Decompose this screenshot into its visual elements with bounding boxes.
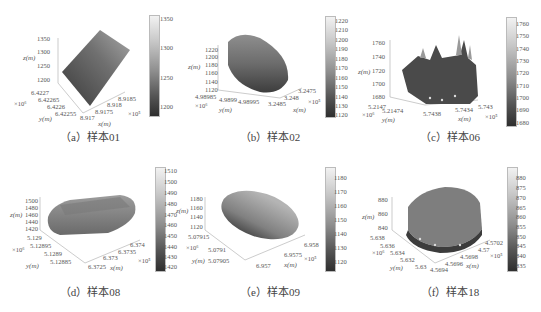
y-tick: 5.21474 xyxy=(382,108,403,115)
x-axis-label: x(m) xyxy=(98,121,111,128)
colorbar-tick: 845 xyxy=(516,243,526,250)
y-tick: 4.9899 xyxy=(219,97,237,104)
y-axis-label: y(m) xyxy=(382,117,395,124)
z-tick: 1420 xyxy=(25,226,38,233)
panel-sample-06: 1760 1740 1720 1700 1680 z(m) 5.2147 5.2… xyxy=(360,0,540,156)
x-tick: 5.7434 xyxy=(455,107,473,114)
colorbar-tick: 1190 xyxy=(335,46,348,53)
x-axis-label: x(m) xyxy=(466,263,479,270)
colorbar-tick: 1250 xyxy=(160,75,173,82)
z-tick: 1200 xyxy=(37,77,50,84)
colorbar-tick: 1690 xyxy=(516,107,529,114)
y-exponent: ×10⁶ xyxy=(12,247,24,254)
colorbar-tick: 1750 xyxy=(516,33,529,40)
y-tick: 5.632 xyxy=(400,257,415,264)
colorbar-tick: 1350 xyxy=(160,16,173,23)
panel-sample-02: 1220 1200 1180 1160 1140 1120 z(m) 4.989… xyxy=(180,0,360,156)
x-tick: 4.57 xyxy=(478,247,489,254)
y-tick: 5.12895 xyxy=(30,243,51,250)
z-tick: 1140 xyxy=(205,79,218,86)
colorbar-tick: 1200 xyxy=(160,104,173,111)
colorbar-tick: 1120 xyxy=(335,112,348,119)
colorbar-tick: 1160 xyxy=(335,75,348,82)
x-tick: 6.9575 xyxy=(284,252,302,259)
y-exponent: ×10⁶ xyxy=(195,103,207,110)
caption: （d）样本08 xyxy=(0,283,180,299)
x-axis-label: x(m) xyxy=(110,265,123,272)
colorbar-tick: 840 xyxy=(516,253,526,260)
colorbar-tick: 875 xyxy=(516,185,526,192)
colorbar-tick: 1170 xyxy=(335,65,348,72)
z-tick: 1160 xyxy=(190,205,203,212)
x-tick: 8.9175 xyxy=(95,109,113,116)
colorbar-tick: 1500 xyxy=(164,179,177,186)
panel-sample-09: 1180 1160 1140 1120 z(m) 5.07915 5.0791 … xyxy=(180,155,360,311)
y-tick: 4.98985 xyxy=(195,94,216,101)
y-axis-label: y(m) xyxy=(26,263,39,270)
x-axis-label: x(m) xyxy=(293,107,306,114)
y-tick: 5.638 xyxy=(370,235,385,242)
x-exponent: ×10⁵ xyxy=(308,99,320,106)
colorbar-tick: 1130 xyxy=(334,245,347,252)
x-tick: 6.374 xyxy=(130,242,145,249)
colorbar-tick: 1730 xyxy=(516,58,529,65)
x-tick: 3.2475 xyxy=(298,88,316,95)
x-tick: 4.5694 xyxy=(430,267,448,274)
x-tick: 6.958 xyxy=(304,242,319,249)
y-exponent: ×10⁶ xyxy=(14,101,26,108)
x-tick: 5.7438 xyxy=(423,111,441,118)
y-axis-label: y(m) xyxy=(219,107,232,114)
x-tick: 6.3735 xyxy=(118,249,136,256)
panel-sample-01: 1350 1300 1250 1200 z(m) 6.4227 6.42265 … xyxy=(0,0,180,156)
z-tick: 1720 xyxy=(372,68,385,75)
colorbar-tick: 870 xyxy=(516,195,526,202)
z-axis-label: z(m) xyxy=(10,212,22,219)
x-tick: 6.3725 xyxy=(88,264,106,271)
panel-sample-08: 1500 1480 1460 1440 1420 z(m) 5.129 5.12… xyxy=(0,155,180,311)
colorbar-tick: 1680 xyxy=(516,120,529,127)
z-tick: 1160 xyxy=(205,70,218,77)
y-exponent: ×10⁶ xyxy=(362,112,374,119)
caption: （c）样本06 xyxy=(360,128,540,144)
colorbar-tick: 835 xyxy=(516,263,526,270)
colorbar xyxy=(149,15,160,117)
y-exponent: ×10⁶ xyxy=(186,245,198,252)
x-exponent: ×10⁵ xyxy=(485,114,497,121)
colorbar-tick: 1140 xyxy=(334,231,347,238)
x-tick: 5.743 xyxy=(478,104,493,111)
z-tick: 1180 xyxy=(190,196,203,203)
z-tick: 1120 xyxy=(190,224,203,231)
colorbar-tick: 1740 xyxy=(516,46,529,53)
colorbar-tick: 850 xyxy=(516,234,526,241)
colorbar-tick: 1220 xyxy=(335,18,348,25)
y-tick: 5.12885 xyxy=(50,259,71,266)
colorbar-tick: 865 xyxy=(516,205,526,212)
x-tick: 3.248 xyxy=(284,95,299,102)
colorbar-tick: 1140 xyxy=(335,94,348,101)
z-tick: 1180 xyxy=(205,62,218,69)
z-axis-label: z(m) xyxy=(176,208,188,215)
z-axis-label: z(m) xyxy=(358,69,370,76)
y-axis-label: y(m) xyxy=(192,258,205,265)
x-exponent: ×10⁵ xyxy=(138,258,150,265)
z-axis-label: z(m) xyxy=(362,214,374,221)
colorbar-tick: 1180 xyxy=(334,175,347,182)
x-tick: 8.9185 xyxy=(118,96,136,103)
colorbar-tick: 1130 xyxy=(335,103,348,110)
y-tick: 6.42255 xyxy=(55,111,76,118)
z-tick: 1250 xyxy=(37,63,50,70)
caption: （a）样本01 xyxy=(0,128,180,144)
colorbar-tick: 1710 xyxy=(516,83,529,90)
x-tick: 6.373 xyxy=(103,255,118,262)
x-tick: 6.957 xyxy=(256,263,271,270)
x-axis-label: x(m) xyxy=(284,262,297,269)
z-tick: 1680 xyxy=(372,94,385,101)
caption: （e）样本09 xyxy=(180,283,360,299)
x-exponent: ×10⁵ xyxy=(490,253,502,260)
caption: （b）样本02 xyxy=(180,128,360,144)
colorbar-tick: 1700 xyxy=(516,95,529,102)
x-tick: 3.2485 xyxy=(268,101,286,108)
colorbar-tick: 1510 xyxy=(164,168,177,175)
z-tick: 1350 xyxy=(37,36,50,43)
colorbar-tick: 1150 xyxy=(334,217,347,224)
